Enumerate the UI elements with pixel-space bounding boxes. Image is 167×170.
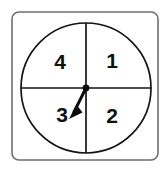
sector-label-4: 4 (54, 50, 66, 73)
sector-label-1: 1 (106, 49, 118, 72)
sector-label-3: 3 (56, 103, 68, 126)
needle-pivot-dot (83, 85, 90, 92)
spinner-figure: 1 2 3 4 (0, 0, 167, 170)
spinner-diagram: 1 2 3 4 (0, 0, 167, 170)
sector-label-2: 2 (106, 104, 118, 127)
